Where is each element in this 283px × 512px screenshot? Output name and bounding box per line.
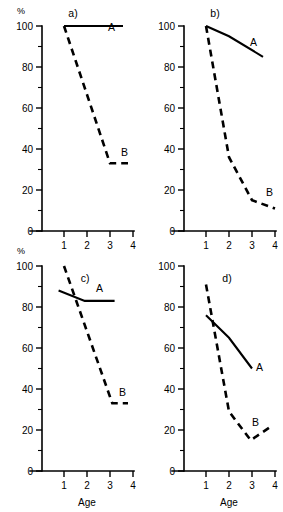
panel-b-xlabel-4: 4: [272, 240, 278, 251]
panel-b-xlabel-3: 3: [249, 240, 255, 251]
panel-c-ylabel-100: 100: [16, 261, 33, 272]
panel-d-title: d): [222, 272, 231, 284]
panel-a-series-a-label: A: [108, 21, 115, 33]
panel-b-ylabel-20: 20: [164, 185, 176, 196]
panel-d-xlabel-3: 3: [249, 480, 255, 491]
panel-c-xlabel-3: 3: [107, 480, 113, 491]
panel-b-ylabel-40: 40: [164, 144, 176, 155]
panel-d: d) 100 80 60 40 20 0 1 2 3 4 Age A B: [158, 261, 278, 508]
panel-c-ylabel-80: 80: [22, 302, 34, 313]
panel-d-series-a-label: A: [256, 361, 263, 373]
panel-d-x-axis-title: Age: [220, 497, 238, 508]
panel-a-ylabel-0: 0: [27, 226, 33, 237]
panel-d-ylabel-60: 60: [164, 343, 176, 354]
four-panel-line-chart: % a) 100 80 60 40 20 0 1 2 3 4: [0, 0, 283, 512]
panel-a: % a) 100 80 60 40 20 0 1 2 3 4: [16, 6, 136, 251]
panel-d-series-b-label: B: [252, 416, 259, 428]
panel-a-xlabel-4: 4: [130, 240, 136, 251]
panel-b-xlabel-2: 2: [226, 240, 232, 251]
panel-c-ylabel-60: 60: [22, 343, 34, 354]
panel-c-series-a-label: A: [96, 282, 103, 294]
figure-panel-grid: % a) 100 80 60 40 20 0 1 2 3 4: [0, 0, 283, 512]
panel-d-ylabel-100: 100: [158, 261, 175, 272]
panel-a-unit-label: %: [17, 6, 25, 16]
panel-d-xlabel-2: 2: [226, 480, 232, 491]
panel-c-x-axis-title: Age: [78, 497, 96, 508]
panel-c-xlabel-2: 2: [84, 480, 90, 491]
panel-a-series-b-label: B: [121, 146, 128, 158]
panel-a-series-b-line: [64, 26, 128, 163]
panel-b-series-b-label: B: [266, 186, 273, 198]
panel-b-series-b-line: [206, 26, 275, 209]
panel-b-ylabel-80: 80: [164, 62, 176, 73]
panel-b-ylabel-60: 60: [164, 103, 176, 114]
panel-c-title: c): [81, 272, 90, 284]
panel-a-ylabel-60: 60: [22, 103, 34, 114]
panel-a-ylabel-20: 20: [22, 185, 34, 196]
panel-d-xlabel-4: 4: [272, 480, 278, 491]
panel-b-xlabel-1: 1: [203, 240, 209, 251]
panel-a-ylabel-80: 80: [22, 62, 34, 73]
panel-b-ylabel-100: 100: [158, 21, 175, 32]
panel-b: b) 100 80 60 40 20 0 1 2 3 4 A B: [158, 7, 278, 251]
panel-c: % c) 100 80 60 40 20 0 1 2 3 4 Age A B: [16, 246, 136, 508]
panel-a-title: a): [68, 7, 77, 19]
panel-a-xlabel-1: 1: [61, 240, 67, 251]
panel-c-series-b-label: B: [119, 386, 126, 398]
panel-a-xlabel-2: 2: [84, 240, 90, 251]
panel-c-ylabel-40: 40: [22, 384, 34, 395]
panel-c-xlabel-1: 1: [61, 480, 67, 491]
panel-d-ylabel-0: 0: [169, 466, 175, 477]
panel-b-series-a-label: A: [250, 36, 257, 48]
panel-c-series-a-line: [59, 291, 115, 301]
panel-a-ylabel-40: 40: [22, 144, 34, 155]
panel-d-ylabel-40: 40: [164, 384, 176, 395]
panel-d-ylabel-80: 80: [164, 302, 176, 313]
panel-d-ylabel-20: 20: [164, 425, 176, 436]
panel-b-title: b): [210, 7, 219, 19]
panel-b-ylabel-0: 0: [169, 226, 175, 237]
panel-c-xlabel-4: 4: [130, 480, 136, 491]
panel-a-ylabel-100: 100: [16, 21, 33, 32]
panel-c-ylabel-20: 20: [22, 425, 34, 436]
panel-c-ylabel-0: 0: [27, 466, 33, 477]
panel-c-unit-label: %: [17, 246, 25, 256]
panel-d-xlabel-1: 1: [203, 480, 209, 491]
panel-a-xlabel-3: 3: [107, 240, 113, 251]
